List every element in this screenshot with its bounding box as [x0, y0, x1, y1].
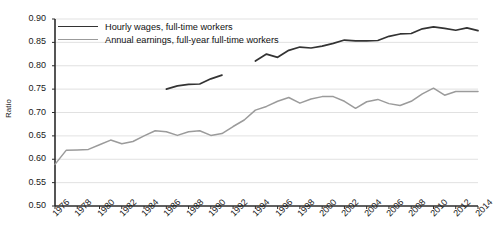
legend-line-swatch-dark [58, 26, 98, 27]
legend-line-swatch-gray [58, 39, 98, 40]
legend-label-annual-earnings: Annual earnings, full-year full-time wor… [105, 35, 279, 45]
chart-legend: Hourly wages, full-time workers Annual e… [58, 20, 279, 46]
series-line-0 [166, 75, 222, 89]
legend-item-hourly-wages: Hourly wages, full-time workers [58, 20, 279, 33]
legend-label-hourly-wages: Hourly wages, full-time workers [105, 22, 233, 32]
legend-item-annual-earnings: Annual earnings, full-year full-time wor… [58, 33, 279, 46]
series-line-0 [255, 27, 478, 61]
series-line-1 [55, 88, 478, 164]
